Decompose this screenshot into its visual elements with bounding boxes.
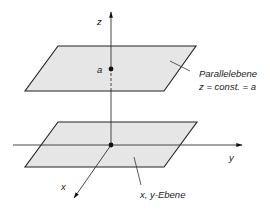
xy-plane-name: x, y-Ebene: [139, 189, 185, 200]
parallel-plane-name: Parallelebene: [199, 68, 257, 79]
point-a: [109, 67, 114, 72]
x-axis-label: x: [60, 181, 67, 192]
point-a-label: a: [97, 64, 102, 75]
z-axis-label: z: [96, 16, 102, 27]
parallel-plane-equation: z = const. = a: [198, 81, 256, 92]
y-axis-label: y: [228, 152, 235, 163]
coordinate-planes-diagram: z y x a Parallelebene z = const. = a x, …: [0, 0, 270, 213]
origin-point: [109, 143, 114, 148]
